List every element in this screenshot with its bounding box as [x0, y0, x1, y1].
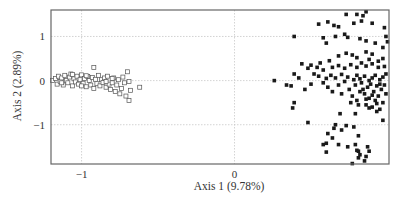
data-point — [357, 134, 361, 138]
series-group-open-squares — [51, 65, 142, 102]
data-point — [384, 72, 388, 76]
data-point — [355, 13, 359, 17]
data-point — [367, 149, 371, 153]
data-point — [367, 106, 371, 110]
data-point — [115, 83, 119, 87]
data-point — [337, 83, 341, 87]
data-point — [334, 35, 338, 39]
data-point — [381, 46, 385, 50]
data-point — [309, 82, 313, 86]
data-point — [384, 92, 388, 96]
data-point — [384, 35, 388, 39]
data-point — [352, 125, 356, 129]
data-point — [121, 75, 125, 79]
series-group-filled-squares — [272, 10, 389, 165]
data-point — [370, 62, 374, 66]
data-point — [306, 66, 310, 70]
data-point — [355, 66, 359, 70]
data-point — [355, 99, 359, 103]
data-point — [357, 103, 361, 107]
data-point — [124, 94, 128, 98]
data-point — [381, 101, 385, 105]
data-point — [326, 20, 330, 24]
x-tick-label: 0 — [232, 168, 238, 180]
data-point — [326, 85, 330, 89]
data-point — [346, 36, 350, 40]
data-point — [370, 52, 374, 56]
data-point — [84, 74, 88, 78]
data-point — [110, 76, 114, 80]
data-point — [292, 101, 296, 105]
data-point — [324, 41, 328, 45]
data-point — [328, 59, 332, 63]
data-point — [92, 65, 96, 69]
data-point — [321, 81, 325, 85]
data-point — [340, 128, 344, 132]
data-point — [317, 74, 321, 78]
data-point — [344, 13, 348, 17]
data-point — [355, 56, 359, 60]
data-point — [334, 76, 338, 80]
data-point — [321, 36, 325, 40]
data-point — [349, 63, 353, 67]
data-point — [349, 101, 353, 105]
data-point — [366, 85, 370, 89]
data-point — [118, 92, 122, 96]
data-point — [343, 32, 347, 36]
data-point — [324, 150, 328, 154]
data-point — [375, 102, 379, 106]
data-point — [332, 126, 336, 130]
data-point — [303, 88, 307, 92]
data-point — [138, 85, 142, 89]
y-axis-ticks: 10−1 — [33, 30, 45, 130]
data-point — [355, 74, 359, 78]
data-point — [350, 53, 354, 57]
data-point — [358, 77, 362, 81]
data-point — [373, 99, 377, 103]
data-point — [376, 66, 380, 70]
y-tick-label: −1 — [33, 119, 45, 131]
data-point — [352, 21, 356, 25]
data-point — [109, 87, 113, 91]
data-point — [104, 79, 108, 83]
data-point — [383, 65, 387, 69]
data-point — [127, 98, 131, 102]
data-point — [326, 132, 330, 136]
data-point — [285, 83, 289, 87]
data-point — [340, 92, 344, 96]
data-point — [113, 90, 117, 94]
data-point — [372, 90, 376, 94]
data-point — [346, 75, 350, 79]
data-point — [364, 64, 368, 68]
data-point — [297, 76, 301, 80]
data-point — [358, 37, 362, 41]
data-point — [360, 61, 364, 65]
data-point — [116, 78, 120, 82]
data-point — [381, 75, 385, 79]
data-point — [334, 123, 338, 127]
data-point — [363, 159, 367, 163]
data-point — [347, 88, 351, 92]
data-point — [340, 73, 344, 77]
data-point — [70, 72, 74, 76]
data-point — [367, 58, 371, 62]
data-point — [344, 51, 348, 55]
data-point — [292, 72, 296, 76]
data-point — [383, 83, 387, 87]
data-point — [119, 87, 123, 91]
data-point — [369, 82, 373, 86]
data-point — [127, 79, 131, 83]
data-point — [324, 141, 328, 145]
data-point — [318, 61, 322, 65]
data-point — [352, 78, 356, 82]
data-point — [80, 84, 84, 88]
data-point — [92, 87, 96, 91]
data-point — [337, 54, 341, 58]
data-point — [360, 81, 364, 85]
data-point — [354, 112, 358, 116]
data-point — [376, 94, 380, 98]
data-point — [125, 70, 129, 74]
data-point — [358, 153, 362, 157]
data-point — [60, 81, 64, 85]
data-point — [364, 155, 368, 159]
